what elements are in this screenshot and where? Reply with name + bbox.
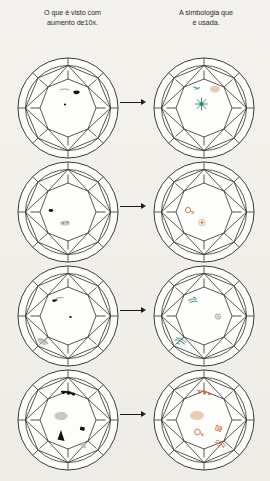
arrow-row-4 (120, 410, 148, 420)
gem-symbology-3 (152, 264, 256, 368)
gem-observed-2 (16, 160, 120, 264)
gem-symbology-4 (152, 368, 256, 472)
table-row (0, 264, 270, 369)
arrow-row-3 (120, 306, 148, 316)
table-row (0, 56, 270, 161)
diagram-rows (0, 0, 270, 481)
table-row (0, 368, 270, 473)
gem-symbology-2 (152, 160, 256, 264)
plate-background: O que é visto com aumento de10x. A simbo… (0, 0, 270, 481)
arrow-row-1 (120, 98, 148, 108)
gem-observed-4 (16, 368, 120, 472)
gem-observed-3 (16, 264, 120, 368)
gem-symbology-1 (152, 56, 256, 160)
gem-observed-1 (16, 56, 120, 160)
table-row (0, 160, 270, 265)
arrow-row-2 (120, 202, 148, 212)
green-starburst-icon (195, 98, 208, 111)
